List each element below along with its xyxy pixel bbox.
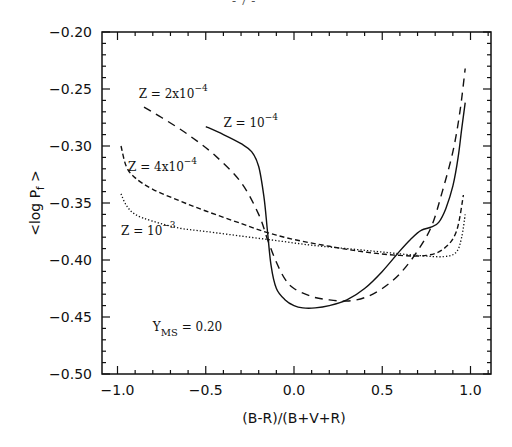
y-tick-label: −0.20 <box>49 24 92 40</box>
series-line <box>144 69 465 302</box>
curve-label: YMS = 0.20 <box>152 320 222 338</box>
series-lines <box>121 69 465 309</box>
y-tick-label: −0.35 <box>49 195 92 211</box>
y-tick-label: −0.25 <box>49 81 92 97</box>
series-line <box>206 103 465 308</box>
y-axis-title-end: > <box>27 170 43 186</box>
curve-label: Z = 10−4 <box>223 112 278 130</box>
y-tick-label: −0.45 <box>49 309 92 325</box>
curve-annotations: Z = 2x10−4Z = 10−4Z = 4x10−4Z = 10−3YMS … <box>121 83 278 338</box>
y-axis-title-main: <log P <box>27 190 43 236</box>
curve-label: Z = 4x10−4 <box>128 156 197 174</box>
y-axis-title: <log Pf > <box>27 170 46 236</box>
x-tick-label: 0.5 <box>371 382 393 398</box>
curve-label: Z = 10−3 <box>121 220 176 238</box>
line-chart: −1.0−0.50.00.51.0−0.50−0.45−0.40−0.35−0.… <box>0 0 512 447</box>
x-tick-label: −1.0 <box>101 382 135 398</box>
y-tick-label: −0.30 <box>49 138 92 154</box>
x-tick-label: 1.0 <box>459 382 481 398</box>
y-tick-label: −0.40 <box>49 252 92 268</box>
svg-text:<log Pf >: <log Pf > <box>27 170 46 236</box>
x-axis-title: (B-R)/(B+V+R) <box>242 410 345 426</box>
x-tick-label: 0.0 <box>283 382 305 398</box>
y-tick-label: −0.50 <box>49 366 92 382</box>
curve-label: Z = 2x10−4 <box>139 83 208 101</box>
x-tick-label: −0.5 <box>189 382 223 398</box>
